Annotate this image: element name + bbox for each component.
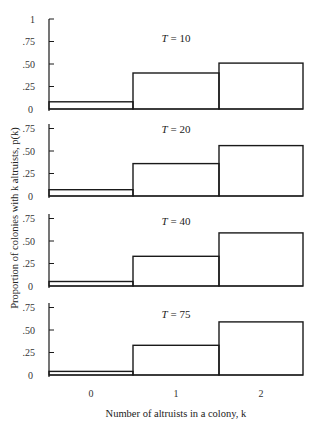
y-tick-label: 0 — [28, 370, 33, 381]
bar-k1 — [133, 73, 219, 109]
panel-title: T = 10 — [162, 32, 191, 44]
y-tick-label: .75 — [23, 123, 36, 134]
bar-k2 — [219, 233, 303, 286]
y-tick-label: .50 — [23, 325, 36, 336]
x-tick-label: 2 — [259, 388, 264, 399]
bar-k2 — [219, 322, 303, 375]
y-tick-label: .25 — [23, 168, 36, 179]
panel-title: T = 75 — [162, 308, 191, 320]
y-tick-label: .25 — [23, 81, 36, 92]
bar-k0 — [49, 102, 133, 109]
y-tick-label: .25 — [23, 258, 36, 269]
panel-4: 0.25.50.75T = 75 — [23, 302, 304, 381]
bar-k0 — [49, 190, 133, 196]
y-tick-label: 0 — [28, 191, 33, 202]
bar-k0 — [49, 282, 133, 287]
x-axis-title: Number of altruists in a colony, k — [106, 408, 248, 419]
y-tick-label: .50 — [23, 236, 36, 247]
panel-title: T = 20 — [162, 123, 191, 135]
bar-k1 — [133, 164, 219, 196]
x-tick-label: 1 — [174, 388, 179, 399]
bar-k0 — [49, 371, 133, 375]
panel-2: 0.25.50.75T = 20 — [23, 123, 304, 202]
panel-1: 0.25.50.751T = 10 — [23, 14, 304, 115]
y-tick-label: .25 — [23, 347, 36, 358]
y-tick-label: .75 — [23, 302, 36, 313]
y-tick-label: .75 — [23, 213, 36, 224]
bar-k2 — [219, 63, 303, 109]
y-tick-label: 1 — [30, 14, 35, 25]
x-axis-ticks: 012 — [89, 388, 264, 399]
y-axis-title: Proportion of colonies with k altruists,… — [9, 127, 21, 309]
y-tick-label: 0 — [28, 104, 33, 115]
bar-k2 — [219, 146, 303, 196]
panel-title: T = 40 — [162, 215, 191, 227]
panel-3: 0.25.50.75T = 40 — [23, 213, 304, 292]
y-tick-label: 0 — [28, 281, 33, 292]
y-tick-label: .50 — [23, 59, 36, 70]
y-tick-label: .75 — [23, 36, 36, 47]
y-tick-label: .50 — [23, 146, 36, 157]
bar-k1 — [133, 256, 219, 286]
x-tick-label: 0 — [89, 388, 94, 399]
stacked-histogram-chart: Proportion of colonies with k altruists,… — [0, 0, 314, 424]
bar-k1 — [133, 345, 219, 375]
